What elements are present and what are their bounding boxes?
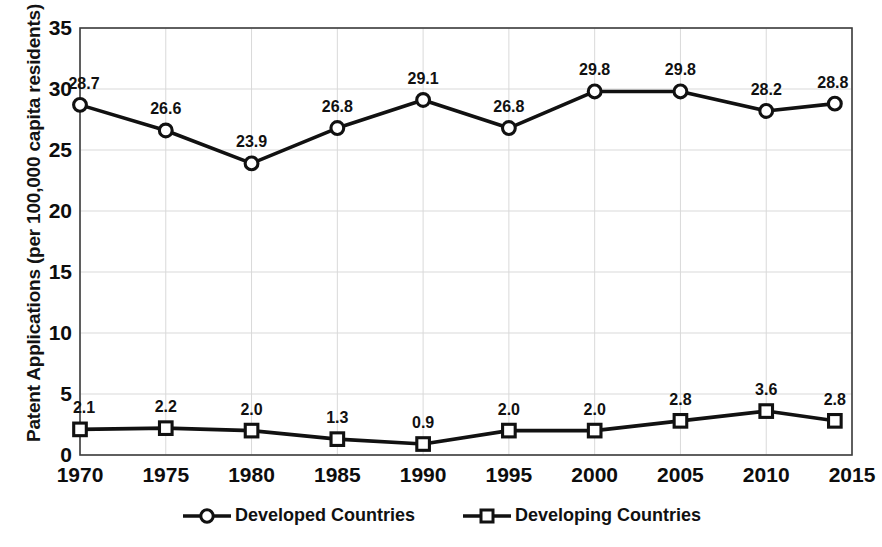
data-point-marker[interactable] [674,85,687,98]
x-tick-label: 2010 [743,463,790,487]
square-marker-icon [461,506,513,526]
data-point-marker[interactable] [674,415,687,428]
patent-applications-line-chart: Patent Applications (per 100,000 capita … [0,0,882,547]
data-point-label: 2.1 [73,399,95,417]
data-point-label: 2.0 [584,401,606,419]
data-point-label: 28.8 [817,74,848,92]
y-tick-label: 35 [10,16,72,40]
data-point-marker[interactable] [331,433,344,446]
data-point-label: 26.8 [322,98,353,116]
data-point-label: 29.1 [408,70,439,88]
data-point-label: 1.3 [326,409,348,427]
x-tick-label: 1985 [314,463,361,487]
series-line-1 [80,411,835,444]
chart-legend: Developed Countries Developing Countries [0,505,882,526]
legend-item-developing[interactable]: Developing Countries [461,505,701,526]
data-point-marker[interactable] [828,97,841,110]
data-point-marker[interactable] [503,424,516,437]
data-point-marker[interactable] [74,98,87,111]
y-tick-label: 15 [10,260,72,284]
x-tick-label: 2005 [657,463,704,487]
x-tick-label: 1980 [228,463,275,487]
data-point-label: 3.6 [755,381,777,399]
x-tick-label: 1990 [400,463,447,487]
data-point-marker[interactable] [159,422,172,435]
legend-item-developed[interactable]: Developed Countries [181,505,415,526]
data-point-label: 28.7 [68,75,99,93]
data-point-label: 28.2 [751,81,782,99]
data-point-label: 2.8 [669,391,691,409]
data-point-marker[interactable] [417,94,430,107]
circle-marker-icon [181,506,233,526]
data-point-marker[interactable] [760,405,773,418]
y-tick-label: 5 [10,382,72,406]
legend-label-developing: Developing Countries [515,505,701,526]
y-tick-label: 25 [10,138,72,162]
data-point-label: 0.9 [412,414,434,432]
y-tick-label: 30 [10,77,72,101]
data-point-label: 29.8 [579,61,610,79]
x-tick-label: 2000 [571,463,618,487]
data-point-marker[interactable] [245,424,258,437]
data-point-label: 26.8 [493,98,524,116]
data-point-marker[interactable] [74,423,87,436]
series-layer [74,85,842,450]
gridlines [80,28,852,455]
data-point-marker[interactable] [588,424,601,437]
y-tick-label: 10 [10,321,72,345]
y-tick-label: 20 [10,199,72,223]
data-point-label: 2.0 [498,401,520,419]
data-point-marker[interactable] [331,122,344,135]
x-tick-label: 1970 [57,463,104,487]
data-point-label: 23.9 [236,133,267,151]
x-tick-label: 1995 [486,463,533,487]
data-point-marker[interactable] [588,85,601,98]
data-point-label: 2.0 [240,401,262,419]
data-point-marker[interactable] [760,105,773,118]
data-point-marker[interactable] [159,124,172,137]
data-point-marker[interactable] [245,157,258,170]
plot-frame [80,28,852,455]
data-point-marker[interactable] [417,438,430,451]
data-point-label: 2.8 [824,391,846,409]
data-point-label: 2.2 [155,398,177,416]
data-point-marker[interactable] [829,415,842,428]
x-tick-label: 1975 [142,463,189,487]
legend-label-developed: Developed Countries [235,505,415,526]
data-point-marker[interactable] [502,122,515,135]
x-tick-label: 2015 [829,463,876,487]
data-point-label: 29.8 [665,61,696,79]
series-line-0 [80,91,835,163]
data-point-label: 26.6 [150,100,181,118]
